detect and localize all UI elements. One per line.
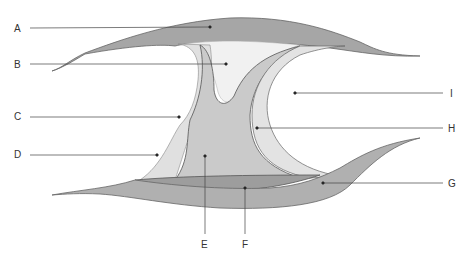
label-a: A: [14, 24, 21, 34]
label-h: H: [448, 124, 455, 134]
label-b: B: [14, 60, 21, 70]
label-d: D: [14, 150, 21, 160]
joint-diagram: A B C D E F G H I: [0, 0, 470, 265]
label-g: G: [448, 179, 456, 189]
label-c: C: [14, 112, 21, 122]
label-i: I: [450, 89, 453, 99]
diagram-graphic: [0, 0, 470, 265]
label-e: E: [201, 240, 208, 250]
label-f: F: [242, 240, 248, 250]
